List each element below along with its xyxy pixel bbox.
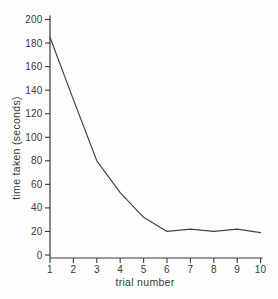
y-axis-tick-label: 180 [25, 38, 43, 49]
x-axis-tick-label: 8 [211, 264, 217, 275]
y-axis-tick-label: 100 [25, 132, 43, 143]
y-axis-tick-label: 80 [31, 155, 43, 166]
y-axis-tick-label: 200 [25, 14, 43, 25]
y-axis-title: time taken (seconds) [10, 96, 22, 199]
y-axis-tick-label: 20 [31, 226, 43, 237]
x-axis-title: trial number [115, 276, 174, 288]
line-chart: 02040608010012014016018020012345678910 t… [0, 0, 278, 299]
y-axis-tick-label: 160 [25, 61, 43, 72]
y-axis-tick-label: 120 [25, 108, 43, 119]
x-axis-tick-label: 1 [47, 264, 53, 275]
x-axis-tick-label: 5 [141, 264, 147, 275]
y-axis-tick-label: 140 [25, 85, 43, 96]
y-axis-tick-label: 0 [37, 250, 43, 261]
x-axis-tick-label: 9 [234, 264, 240, 275]
x-axis-tick-label: 7 [188, 264, 194, 275]
data-line [50, 37, 261, 232]
x-axis-tick-label: 2 [71, 264, 77, 275]
plot-area: 02040608010012014016018020012345678910 [25, 14, 266, 275]
chart-figure: 02040608010012014016018020012345678910 t… [0, 0, 278, 299]
y-axis-tick-label: 40 [31, 202, 43, 213]
x-axis-tick-label: 6 [164, 264, 170, 275]
x-axis-tick-label: 10 [255, 264, 267, 275]
x-axis-tick-label: 3 [94, 264, 100, 275]
y-axis-tick-label: 60 [31, 179, 43, 190]
x-axis-tick-label: 4 [117, 264, 123, 275]
